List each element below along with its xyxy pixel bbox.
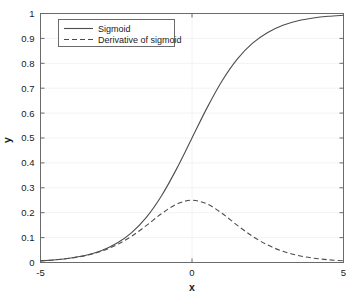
- y-tick-label: 0.1: [21, 232, 34, 243]
- chart-figure: 00.10.20.30.40.50.60.70.80.91 -505 x y S…: [0, 0, 356, 299]
- x-tick-label: 0: [189, 267, 194, 278]
- y-tick-label: 0.2: [21, 207, 34, 218]
- y-tick-label: 0.7: [21, 83, 34, 94]
- y-tick-label: 0.4: [21, 157, 34, 168]
- y-tick-label: 1: [29, 8, 34, 19]
- y-tick-label: 0.8: [21, 58, 34, 69]
- y-tick-label: 0.6: [21, 108, 34, 119]
- legend-label-sigmoid: Sigmoid: [98, 24, 131, 34]
- x-tick-label: -5: [36, 267, 44, 278]
- y-tick-label: 0.9: [21, 33, 34, 44]
- y-tick-label: 0: [29, 257, 34, 268]
- chart-legend: Sigmoid Derivative of sigmoid: [59, 20, 182, 47]
- legend-label-derivative: Derivative of sigmoid: [98, 35, 182, 45]
- figure-background: [0, 0, 356, 299]
- y-tick-label: 0.5: [21, 132, 34, 143]
- x-tick-label: 5: [341, 267, 346, 278]
- y-tick-label: 0.3: [21, 182, 34, 193]
- x-axis-title: x: [189, 281, 195, 293]
- sigmoid-chart: 00.10.20.30.40.50.60.70.80.91 -505 x y S…: [0, 0, 356, 299]
- y-axis-title: y: [1, 137, 13, 143]
